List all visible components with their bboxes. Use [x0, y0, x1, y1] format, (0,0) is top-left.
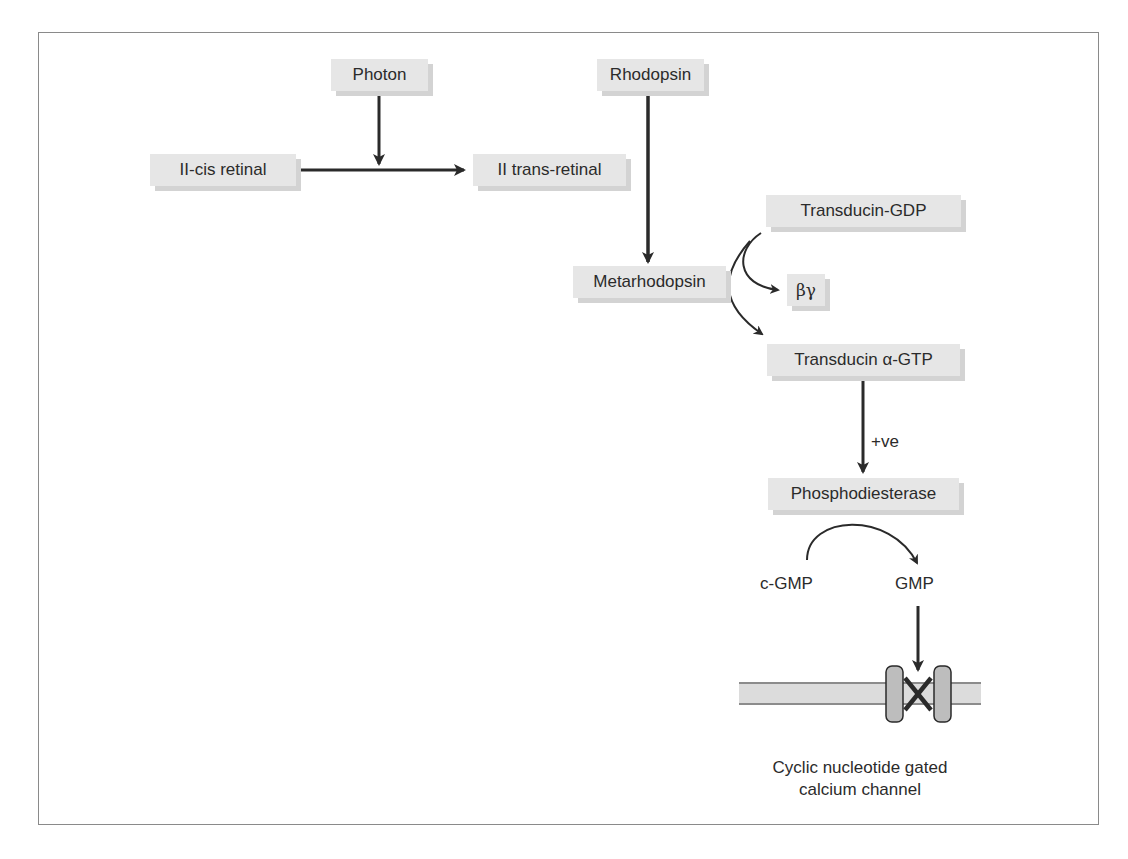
node-cis-retinal: II-cis retinal	[150, 154, 296, 186]
node-rhodopsin: Rhodopsin	[597, 59, 704, 91]
node-phosphodiesterase: Phosphodiesterase	[768, 478, 959, 510]
node-beta-gamma: βγ	[787, 274, 825, 306]
channel-subunit-left	[886, 666, 903, 722]
node-photon: Photon	[331, 59, 428, 91]
channel-caption-line1: Cyclic nucleotide gated	[740, 757, 980, 779]
node-gmp: GMP	[895, 574, 934, 594]
channel-caption: Cyclic nucleotide gated calcium channel	[740, 757, 980, 801]
channel-caption-line2: calcium channel	[740, 779, 980, 801]
label-positive-effect: +ve	[871, 432, 899, 452]
arrow-cgmp-to-gmp	[807, 525, 917, 563]
node-trans-retinal: II trans-retinal	[473, 154, 626, 186]
arrows-layer	[0, 0, 1128, 859]
arrow-to-transducin-gtp	[729, 241, 762, 334]
node-cgmp: c-GMP	[760, 574, 813, 594]
node-metarhodopsin: Metarhodopsin	[573, 266, 726, 298]
node-transducin-gtp: Transducin α-GTP	[767, 344, 960, 376]
channel-subunit-right	[934, 666, 951, 722]
node-transducin-gdp: Transducin-GDP	[766, 195, 961, 227]
